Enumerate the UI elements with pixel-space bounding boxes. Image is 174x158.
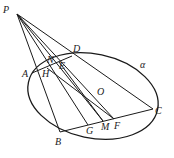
label-alpha: α: [140, 59, 146, 70]
label-A: A: [21, 68, 29, 79]
label-D: D: [72, 43, 81, 54]
line-PC: [17, 14, 153, 109]
label-E: E: [58, 60, 65, 71]
label-F: F: [113, 120, 121, 131]
label-G: G: [86, 125, 93, 136]
label-B: B: [55, 136, 61, 147]
label-C: C: [155, 105, 162, 116]
label-N: N: [46, 54, 55, 65]
label-P: P: [2, 4, 9, 15]
label-M: M: [100, 121, 110, 132]
geometry-figure: P D N E A H O α C G M F B: [0, 0, 174, 158]
label-O: O: [97, 86, 104, 97]
label-H: H: [41, 68, 50, 79]
